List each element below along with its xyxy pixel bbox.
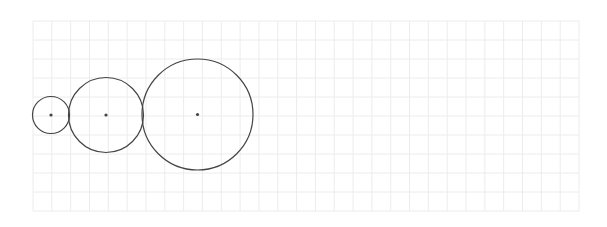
- center-point-large: [196, 113, 199, 116]
- background-grid: [33, 21, 579, 211]
- diagram-canvas: [0, 0, 607, 227]
- center-point-small: [49, 113, 52, 116]
- center-point-medium: [104, 113, 107, 116]
- tangent-circles-group: [33, 59, 254, 170]
